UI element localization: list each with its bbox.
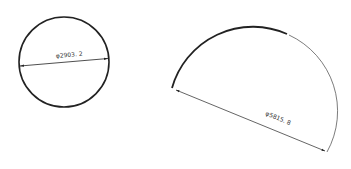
diameter-dimension-line	[176, 90, 325, 151]
arc-thin-segment	[289, 35, 338, 152]
drawing-canvas: φ2903. 2 φ5815. 8	[0, 0, 351, 169]
diameter-dimension-line	[20, 59, 108, 67]
arc-thick-segment	[172, 27, 287, 88]
diameter-label: φ2903. 2	[55, 50, 83, 60]
diameter-label: φ5815. 8	[264, 109, 292, 127]
large-arc: φ5815. 8	[172, 27, 338, 152]
small-circle: φ2903. 2	[19, 17, 109, 107]
